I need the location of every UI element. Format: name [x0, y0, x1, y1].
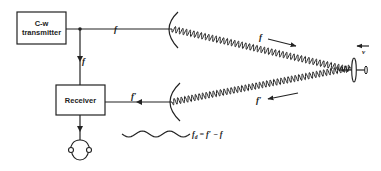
- down-arrow-icon: [77, 126, 83, 132]
- transmitter-block: C-w transmitter: [17, 12, 66, 44]
- audio-output-line: [77, 115, 83, 140]
- outgoing-wave: f: [172, 27, 350, 73]
- receive-feed-line: f′: [105, 91, 172, 105]
- outgoing-wave-freq-label: f: [259, 32, 263, 42]
- returning-wave-freq-label: f′: [256, 95, 262, 105]
- velocity-label: v: [362, 48, 366, 56]
- doppler-formula: fd = f′ − f: [192, 130, 224, 140]
- rx-line-freq-label: f′: [131, 91, 137, 101]
- outgoing-direction-arrow: [268, 39, 296, 46]
- transmitter-label-line2: transmitter: [22, 28, 61, 37]
- receiver-block: Receiver: [56, 85, 105, 115]
- transmitter-label-line1: C-w: [35, 19, 49, 28]
- left-arrow-icon: [136, 99, 142, 105]
- velocity-indicator: v: [357, 46, 369, 56]
- doppler-beat: fd = f′ − f: [122, 130, 224, 140]
- headphones-icon: [69, 140, 92, 160]
- transmit-feed-line: f: [66, 24, 172, 34]
- receiver-label: Receiver: [65, 96, 96, 105]
- returning-wave: f′: [172, 65, 350, 105]
- tx-to-rx-freq-label: f: [82, 56, 86, 66]
- doppler-radar-diagram: C-w transmitter f f Receiver f′: [0, 0, 381, 171]
- returning-direction-arrow: [268, 93, 298, 99]
- aircraft-icon: [340, 58, 367, 82]
- reference-line: f: [77, 29, 86, 85]
